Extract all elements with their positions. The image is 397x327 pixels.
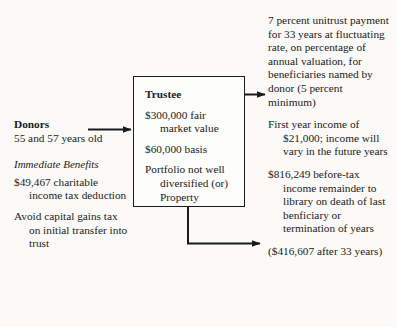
trustee-item: $60,000 basis: [145, 143, 238, 157]
trustee-title: Trustee: [145, 88, 238, 102]
outcome-income-remainder: $816,249 before-tax income remainder to …: [268, 168, 392, 236]
donors-ages: 55 and 57 years old: [14, 132, 130, 146]
outcome-after-33-years: ($416,607 after 33 years): [268, 245, 392, 259]
trustee-item: $300,000 fair market value: [145, 109, 238, 136]
donors-column: Donors 55 and 57 years old Immediate Ben…: [14, 118, 130, 251]
donors-heading: Donors: [14, 118, 130, 132]
outcome-first-year-income: First year income of $21,000; income wil…: [268, 118, 392, 159]
immediate-benefits-title: Immediate Benefits: [14, 158, 130, 172]
trustee-item: Portfolio not well diversified (or) Prop…: [145, 163, 238, 204]
outcome-unitrust-payment: 7 percent unitrust payment for 33 years …: [268, 14, 392, 109]
donor-benefit-item: $49,467 charitable income tax deduction: [14, 176, 130, 203]
trustee-box-content: Trustee $300,000 fair market value $60,0…: [145, 88, 238, 204]
charitable-remainder-unitrust-diagram: Donors 55 and 57 years old Immediate Ben…: [0, 0, 397, 327]
trustee-box: Trustee $300,000 fair market value $60,0…: [133, 76, 245, 207]
donor-benefit-item: Avoid capital gains tax on initial trans…: [14, 210, 130, 251]
outcomes-column: 7 percent unitrust payment for 33 years …: [268, 14, 392, 268]
arrow-trustee-to-remainder: [188, 207, 260, 244]
